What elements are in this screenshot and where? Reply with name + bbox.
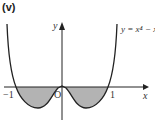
x-axis-label: x	[143, 90, 147, 101]
y-axis-label: y	[53, 20, 57, 31]
y-axis-arrow-icon	[59, 22, 65, 30]
origin-label: O	[54, 89, 61, 100]
tick-label-neg-one: −1	[3, 89, 14, 100]
plot-area	[0, 0, 155, 129]
tick-label-one: 1	[110, 89, 115, 100]
equation-label: y = x⁴ − x²	[121, 24, 155, 34]
